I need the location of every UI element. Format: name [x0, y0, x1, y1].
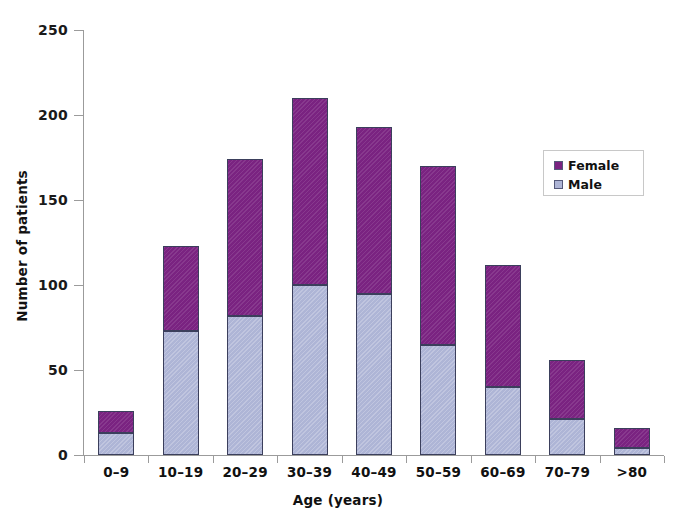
x-tick-3 [277, 456, 278, 463]
x-tick-label-3: 30–39 [277, 465, 341, 480]
legend-item-female: Female [554, 156, 643, 175]
x-axis-line [83, 455, 664, 456]
bar-segment-male [98, 433, 134, 455]
x-tick-label-8: >80 [600, 465, 664, 480]
x-axis-title: Age (years) [0, 492, 676, 508]
x-tick-6 [471, 456, 472, 463]
bar-6069 [485, 265, 521, 455]
bar-1019 [163, 246, 199, 455]
x-tick-0 [84, 456, 85, 463]
stacked-bar-chart: 050100150200250 Number of patients 0–910… [0, 0, 676, 527]
bar-segment-male [549, 419, 585, 455]
bar-segment-female [98, 411, 134, 433]
bar-segment-male [420, 345, 456, 456]
legend-swatch-male-icon [554, 180, 563, 189]
y-tick-label-200: 200 [38, 108, 68, 122]
bar-segment-male [485, 387, 521, 455]
x-tick-8 [600, 456, 601, 463]
bar-segment-female [292, 98, 328, 285]
x-tick-label-6: 60–69 [471, 465, 535, 480]
y-tick-label-0: 0 [58, 448, 68, 462]
bar-segment-female [227, 159, 263, 315]
y-tick-200 [74, 115, 83, 116]
bar-5059 [420, 166, 456, 455]
bar-segment-female [163, 246, 199, 331]
bar-segment-female [549, 360, 585, 420]
y-tick-label-150: 150 [38, 193, 68, 207]
x-tick-4 [342, 456, 343, 463]
bar-80 [614, 428, 650, 455]
y-tick-100 [74, 285, 83, 286]
x-tick-label-5: 50–59 [406, 465, 470, 480]
x-tick-9 [664, 456, 665, 463]
y-tick-150 [74, 200, 83, 201]
x-tick-1 [148, 456, 149, 463]
y-tick-label-250: 250 [38, 23, 68, 37]
x-tick-label-7: 70–79 [535, 465, 599, 480]
y-tick-50 [74, 370, 83, 371]
y-tick-250 [74, 30, 83, 31]
bar-09 [98, 411, 134, 455]
y-tick-0 [74, 455, 83, 456]
legend-label-female: Female [568, 158, 619, 173]
bar-segment-female [356, 127, 392, 294]
y-tick-label-50: 50 [48, 363, 68, 377]
bar-segment-male [614, 448, 650, 455]
legend-swatch-female-icon [554, 161, 563, 170]
y-tick-label-100: 100 [38, 278, 68, 292]
bar-segment-male [356, 294, 392, 456]
x-tick-2 [213, 456, 214, 463]
bar-4049 [356, 127, 392, 455]
y-axis-title: Number of patients [14, 136, 30, 356]
bar-3039 [292, 98, 328, 455]
plot-area [84, 30, 664, 455]
bar-segment-female [614, 428, 650, 448]
bar-segment-male [227, 316, 263, 455]
x-tick-label-4: 40–49 [342, 465, 406, 480]
bar-7079 [549, 360, 585, 455]
legend-item-male: Male [554, 175, 643, 194]
x-tick-5 [406, 456, 407, 463]
x-tick-label-0: 0–9 [84, 465, 148, 480]
bar-2029 [227, 159, 263, 455]
bar-segment-male [292, 285, 328, 455]
y-axis-tick-labels: 050100150200250 [0, 0, 68, 527]
x-tick-7 [535, 456, 536, 463]
bar-segment-male [163, 331, 199, 455]
bar-segment-female [485, 265, 521, 387]
x-tick-label-2: 20–29 [213, 465, 277, 480]
legend: Female Male [543, 150, 644, 196]
legend-label-male: Male [568, 177, 602, 192]
bar-segment-female [420, 166, 456, 345]
x-tick-label-1: 10–19 [148, 465, 212, 480]
